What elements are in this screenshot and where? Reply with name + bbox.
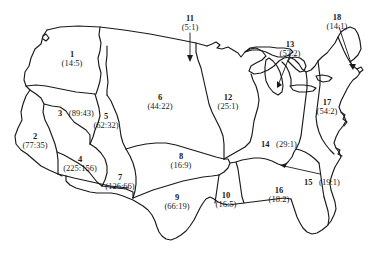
boundary-6-east xyxy=(196,43,224,159)
boundary-16-east xyxy=(319,163,324,197)
michigan-peninsula xyxy=(282,62,291,86)
leader-arrowhead-11 xyxy=(187,55,193,62)
boundary-6-south xyxy=(126,143,224,159)
boundary-10-east xyxy=(236,162,244,203)
boundary-1-south-west xyxy=(26,85,95,94)
lake-erie xyxy=(290,85,316,92)
boundary-3-south xyxy=(44,104,90,144)
boundary-1-east xyxy=(96,27,101,94)
boundary-3-east xyxy=(90,94,100,144)
outline-puget-notch xyxy=(43,34,49,41)
leader-line-15 xyxy=(284,166,320,174)
outline-northern-border xyxy=(47,26,207,46)
boundary-5-east xyxy=(107,95,126,149)
leader-line-18 xyxy=(339,27,352,66)
us-region-map: 1 (14:5) 2 (77:35) 3 (89:43) 4 (225:156)… xyxy=(0,0,387,267)
outline-national-west xyxy=(15,30,66,176)
leader-arrowhead-15 xyxy=(280,163,287,168)
lake-ontario xyxy=(316,75,332,82)
outline-lakes-border xyxy=(207,29,345,74)
boundary-2-east xyxy=(30,90,58,174)
boundary-4-south xyxy=(57,152,102,186)
boundary-14-east xyxy=(296,72,307,149)
boundary-14-south xyxy=(284,149,319,166)
map-outline-svg xyxy=(0,0,387,267)
boundary-10-west xyxy=(219,159,230,175)
boundary-6-west-upper xyxy=(106,46,108,95)
boundary-4-east xyxy=(90,144,107,186)
leader-line-13 xyxy=(279,55,290,83)
boundary-10-north xyxy=(230,158,284,166)
lake-michigan xyxy=(265,58,283,95)
boundary-9-east xyxy=(215,175,219,203)
boundary-12-south xyxy=(224,74,259,159)
outline-gulf-coast xyxy=(66,176,291,240)
boundary-8-south xyxy=(133,175,219,198)
florida-neck xyxy=(324,197,329,225)
